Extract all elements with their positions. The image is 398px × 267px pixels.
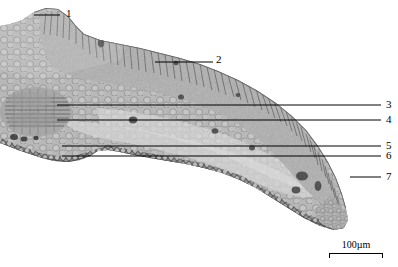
callout-label-6: 6 [386,150,392,161]
scale-bar: 100µm [325,240,387,257]
micrograph-figure: 1 2 3 4 5 6 7 100µm [0,0,398,267]
micrograph-image [0,0,398,267]
callout-label-7: 7 [386,171,392,182]
scale-bar-rule [325,251,387,257]
callout-label-4: 4 [386,114,392,125]
callout-label-1: 1 [66,8,72,19]
callout-label-3: 3 [386,99,392,110]
scale-bar-text: 100µm [325,240,387,250]
callout-label-2: 2 [216,54,222,65]
